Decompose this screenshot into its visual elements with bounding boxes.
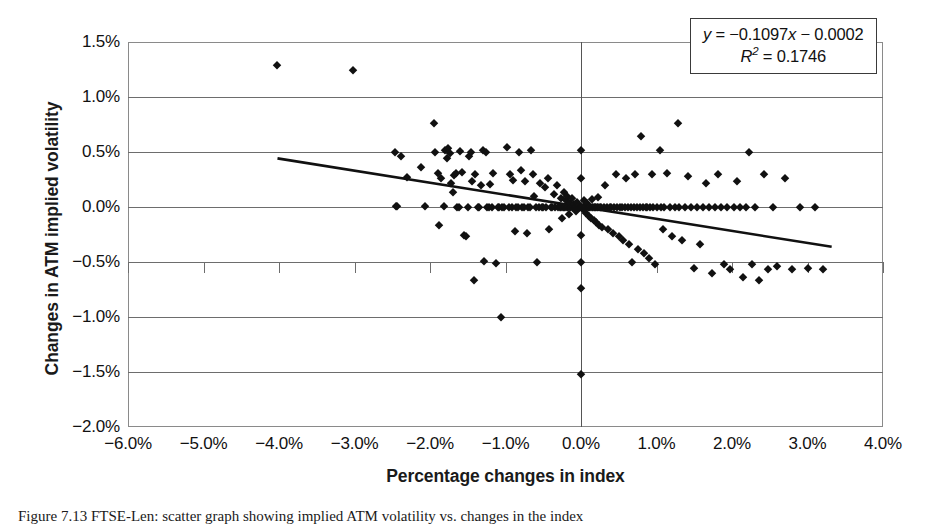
y-tick-label-4: −0.5% xyxy=(8,252,120,272)
x-axis-title: Percentage changes in index xyxy=(128,466,883,487)
x-tick-label-10: 4.0% xyxy=(838,434,928,454)
equation-suffix: − 0.0002 xyxy=(796,25,863,43)
plot-area xyxy=(128,42,883,427)
equation-x-var: x xyxy=(788,25,796,43)
x-tick-mark-10 xyxy=(883,262,884,273)
y-tick-label-0: 1.5% xyxy=(8,32,120,52)
y-tick-label-3: 0.0% xyxy=(8,197,120,217)
equation-body: = −0.1097 xyxy=(711,25,788,43)
y-tick-labels: 1.5%1.0%0.5%0.0%−0.5%−1.0%−1.5%−2.0% xyxy=(0,42,120,427)
r-squared-text: R2 = 0.1746 xyxy=(703,44,864,66)
r-squared-symbol: R xyxy=(741,47,753,65)
regression-equation-box: y = −0.1097x − 0.0002 R2 = 0.1746 xyxy=(690,18,877,74)
figure-caption: Figure 7.13 FTSE-Len: scatter graph show… xyxy=(18,508,918,525)
equation-y-var: y xyxy=(703,25,711,43)
y-tick-label-6: −1.5% xyxy=(8,362,120,382)
x-tick-labels: −6.0%−5.0%−4.0%−3.0%−2.0%−1.0%0.0%1.0%2.… xyxy=(128,434,883,460)
regression-equation-text: y = −0.1097x − 0.0002 xyxy=(703,24,864,44)
y-tick-label-2: 0.5% xyxy=(8,142,120,162)
y-tick-label-5: −1.0% xyxy=(8,307,120,327)
trendline xyxy=(128,42,883,427)
r-squared-value: = 0.1746 xyxy=(758,47,825,65)
y-tick-label-1: 1.0% xyxy=(8,87,120,107)
